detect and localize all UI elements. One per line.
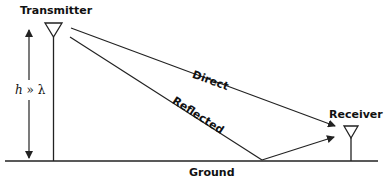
ground-label: Ground [189, 166, 235, 179]
much-greater-symbol: » [27, 83, 34, 97]
diagram-graphics [0, 0, 386, 183]
receiver-antenna-icon [344, 126, 358, 161]
height-var: h [15, 83, 23, 97]
receiver-label: Receiver [329, 108, 383, 121]
reflected-ray-bounce [262, 137, 334, 160]
transmitter-antenna-icon [45, 23, 62, 161]
transmitter-label: Transmitter [20, 4, 92, 17]
height-condition-label: h » λ [14, 83, 46, 97]
reflected-ray [70, 37, 262, 160]
two-ray-diagram: Transmitter Receiver Direct Reflected Gr… [0, 0, 386, 183]
wavelength-symbol: λ [38, 83, 46, 97]
